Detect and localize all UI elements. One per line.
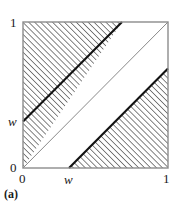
- y-axis-tick-label-1: 1: [10, 16, 17, 29]
- figure-panel-a: 1 w 0 0 w 1 (a): [0, 0, 174, 202]
- y-axis-tick-label-0: 0: [10, 161, 17, 174]
- x-axis-tick-label-1: 1: [163, 172, 170, 185]
- x-axis-tick-label-w: w: [64, 173, 73, 186]
- unit-square-plot: [0, 0, 174, 202]
- panel-caption: (a): [4, 188, 18, 200]
- x-axis-tick-label-0: 0: [19, 172, 26, 185]
- y-axis-tick-label-w: w: [8, 115, 17, 128]
